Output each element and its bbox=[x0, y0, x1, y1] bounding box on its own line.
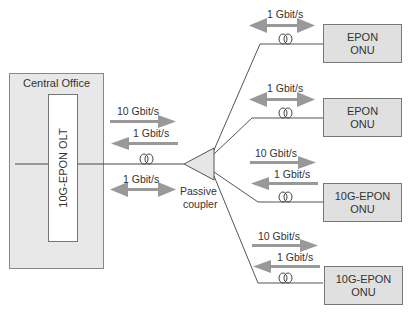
onu4-line1: 10G-EPON bbox=[336, 273, 392, 286]
onu2-rate: 1 Gbit/s bbox=[267, 82, 303, 94]
onu4-down-rate: 10 Gbit/s bbox=[258, 230, 300, 242]
onu3-line2: ONU bbox=[335, 203, 391, 216]
onu4-line2: ONU bbox=[336, 286, 392, 299]
coupler-label-1: Passive bbox=[180, 185, 217, 197]
onu-box-2: EPONONU bbox=[323, 98, 402, 137]
coupler-label-2: coupler bbox=[183, 198, 217, 210]
trunk-bidir-rate: 1 Gbit/s bbox=[123, 173, 159, 185]
onu3-down-rate: 10 Gbit/s bbox=[255, 147, 297, 159]
onu1-line1: EPON bbox=[347, 31, 378, 44]
trunk-down-rate: 10 Gbit/s bbox=[117, 105, 159, 117]
onu4-up-rate: 1 Gbit/s bbox=[277, 251, 313, 263]
onu3-up-rate: 1 Gbit/s bbox=[274, 168, 310, 180]
olt-label: 10G-EPON OLT bbox=[57, 128, 69, 207]
olt-box: 10G-EPON OLT bbox=[48, 94, 78, 242]
trunk-up-rate: 1 Gbit/s bbox=[133, 127, 169, 139]
onu2-line1: EPON bbox=[347, 105, 378, 118]
onu1-line2: ONU bbox=[347, 44, 378, 57]
onu-box-3: 10G-EPONONU bbox=[323, 183, 402, 222]
onu-box-1: EPONONU bbox=[323, 24, 402, 63]
onu2-line2: ONU bbox=[347, 118, 378, 131]
onu-box-4: 10G-EPONONU bbox=[324, 266, 403, 305]
onu1-rate: 1 Gbit/s bbox=[267, 8, 303, 20]
onu3-line1: 10G-EPON bbox=[335, 190, 391, 203]
